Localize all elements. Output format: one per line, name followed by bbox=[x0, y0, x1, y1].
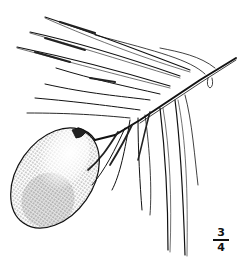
palm-frond-with-fruit-drawing bbox=[0, 0, 247, 265]
botanical-illustration-canvas: 3 4 bbox=[0, 0, 247, 265]
scale-denominator: 4 bbox=[213, 242, 229, 253]
scale-numerator: 3 bbox=[213, 227, 229, 238]
fruit bbox=[0, 111, 118, 245]
scale-fraction: 3 4 bbox=[213, 227, 229, 253]
